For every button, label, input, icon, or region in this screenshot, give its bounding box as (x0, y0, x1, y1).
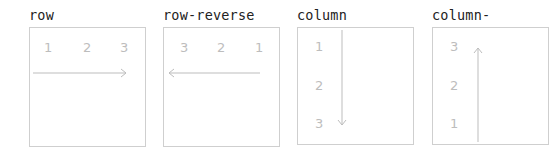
row-label: row (29, 7, 54, 23)
column-reverse-box: 3 2 1 (432, 27, 549, 145)
arrow-down-icon (298, 28, 415, 146)
row-reverse-box: 3 2 1 (163, 27, 280, 147)
arrow-left-icon (164, 28, 281, 148)
arrow-up-icon (433, 28, 550, 146)
row-box: 1 2 3 (29, 27, 146, 147)
row-reverse-label: row-reverse (163, 7, 255, 23)
column-label: column (297, 7, 347, 23)
column-box: 1 2 3 (297, 27, 414, 145)
arrow-right-icon (30, 28, 147, 148)
